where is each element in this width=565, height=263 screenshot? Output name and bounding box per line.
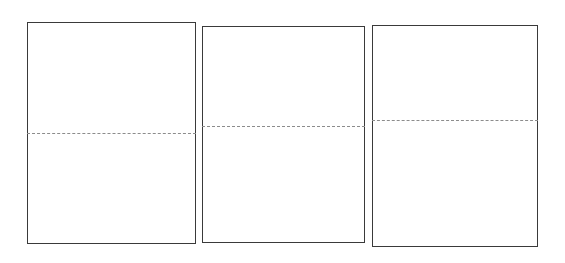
panel-3-outline: [372, 25, 538, 247]
figure-canvas: [0, 0, 565, 263]
panel-1: [27, 22, 196, 244]
panel-1-dashed-line: [27, 133, 196, 134]
panel-2-outline: [202, 26, 365, 243]
panel-2-dashed-line: [202, 126, 365, 127]
panel-2: [202, 26, 365, 243]
panel-3: [372, 25, 538, 247]
panel-3-dashed-line: [372, 120, 538, 121]
